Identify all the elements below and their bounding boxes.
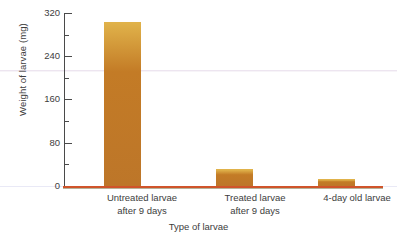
y-axis-title: Weight of larvae (mg) [17, 0, 28, 140]
x-category-label-4-day-old-line1: 4-day old larvae [323, 192, 391, 203]
bar-4-day-old-larvae [318, 179, 355, 186]
x-axis-title: Type of larvae [0, 221, 397, 232]
y-tick-label-80: 80 [18, 137, 60, 148]
x-category-label-untreated-line1: Untreated larvae [107, 192, 177, 203]
y-tick-label-0: 0 [18, 180, 60, 191]
x-axis-shadow [63, 188, 383, 189]
bar-chart: Weight of larvae (mg) 320 240 160 80 0 U… [0, 0, 397, 239]
y-tick-label-160: 160 [18, 93, 60, 104]
x-axis-line [63, 186, 383, 188]
y-tick-label-320: 320 [18, 7, 60, 18]
bar-treated-larvae [216, 169, 253, 186]
plot-area [64, 13, 384, 186]
x-category-label-4-day-old: 4-day old larvae [277, 192, 397, 205]
y-tick-label-240: 240 [18, 50, 60, 61]
bar-untreated-larvae [104, 22, 141, 186]
x-category-label-treated-line2: after 9 days [175, 205, 335, 218]
